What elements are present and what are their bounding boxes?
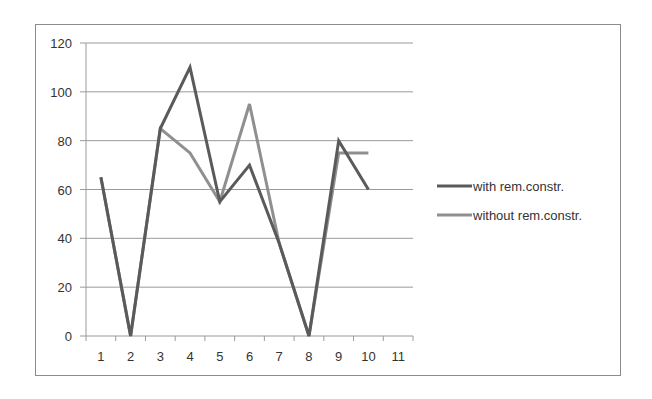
legend-item-with: with rem.constr. [437, 179, 564, 194]
x-tick-label: 11 [391, 349, 405, 364]
y-tick-label: 100 [50, 85, 72, 100]
series-line-without [101, 104, 369, 336]
y-tick-label: 20 [58, 280, 72, 295]
x-tick-label: 1 [97, 349, 104, 364]
y-tick-label: 40 [58, 231, 72, 246]
x-tick-label: 4 [186, 349, 193, 364]
x-tick-label: 10 [361, 349, 375, 364]
x-tick-label: 8 [305, 349, 312, 364]
legend-label-without: without rem.constr. [472, 208, 582, 223]
series-lines [101, 67, 369, 336]
y-tick-label: 120 [50, 36, 72, 51]
legend-label-with: with rem.constr. [472, 179, 564, 194]
line-chart: 020406080100120 1234567891011 with rem.c… [0, 0, 652, 399]
x-tick-label: 5 [216, 349, 223, 364]
gridlines [80, 43, 413, 336]
x-tick-label: 7 [276, 349, 283, 364]
y-tick-label: 0 [65, 329, 72, 344]
x-tick-label: 2 [127, 349, 134, 364]
x-tick-label: 9 [335, 349, 342, 364]
legend-item-without: without rem.constr. [437, 208, 582, 223]
series-line-with [101, 67, 369, 336]
y-tick-label: 60 [58, 183, 72, 198]
y-tick-label: 80 [58, 134, 72, 149]
legend: with rem.constr. without rem.constr. [437, 179, 582, 223]
x-tick-label: 6 [246, 349, 253, 364]
x-tick-label: 3 [157, 349, 164, 364]
x-axis: 1234567891011 [86, 336, 413, 364]
